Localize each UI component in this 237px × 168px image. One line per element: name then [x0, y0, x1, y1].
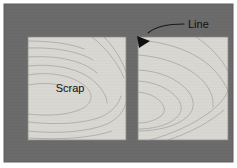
scrap-label: Scrap	[56, 82, 85, 94]
diagram-canvas: Scrap	[0, 0, 237, 168]
line-label: Line	[188, 18, 209, 30]
left-panel: Scrap	[28, 37, 126, 140]
right-panel	[138, 37, 230, 140]
diagram-figure: Scrap	[0, 0, 237, 168]
